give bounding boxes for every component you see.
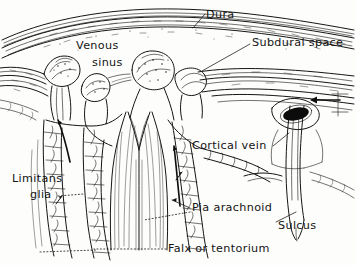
left-dura-leaf [0,67,48,96]
leader-falx-left [40,250,96,252]
label-dura: Dura [206,8,235,21]
cortical-surface-center-left [58,120,112,260]
dura-band [2,9,354,58]
label-limitans-glia-line1: Limitans [12,172,62,185]
label-falx-or-tentorium: Falx or tentorium [168,242,270,255]
label-venous-sinus-line2: sinus [92,56,123,69]
leader-subdural-space [202,44,250,71]
venous-sinus-lumen [108,74,131,86]
cortical-surface-left [31,114,122,258]
arachnoid-granulation-center [130,51,174,120]
arachnoid-cells-left-strip [0,100,38,120]
meninges-diagram: Dura Subdural space Venous sinus Cortica… [0,0,356,265]
arachnoid-granulation-left [44,56,80,120]
diagram-canvas: Dura Subdural space Venous sinus Cortica… [0,0,356,265]
label-subdural-space: Subdural space [252,36,343,49]
falx-cerebri [110,112,167,250]
cortical-cells-far-right [310,172,354,198]
label-pia-arachnoid: Pia arachnoid [192,201,272,214]
leader-pia-arachnoid [144,212,190,220]
arachnoid-granulation-right [175,68,207,120]
leader-limitans-glia [58,194,84,196]
vein-tributary [244,173,282,181]
label-sulcus: Sulcus [278,219,316,232]
label-limitans-glia-line2: glia [30,188,52,201]
arachnoid-granulation-left-mid [81,74,110,126]
label-venous-sinus-line1: Venous [76,39,119,52]
label-cortical-vein: Cortical vein [192,139,267,152]
cortical-surface-arch-right [200,148,270,182]
